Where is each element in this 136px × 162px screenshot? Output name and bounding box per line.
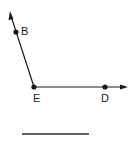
angle-diagram: B E D	[0, 0, 136, 162]
ray-eb	[9, 11, 35, 87]
label-e: E	[33, 92, 40, 104]
point-e	[31, 84, 36, 89]
label-d: D	[101, 92, 109, 104]
label-b: B	[21, 25, 28, 37]
point-d	[102, 84, 107, 89]
ray-ed	[34, 85, 128, 90]
arrowhead-icon	[9, 11, 14, 20]
point-b	[13, 29, 18, 34]
arrowhead-icon	[120, 85, 128, 90]
